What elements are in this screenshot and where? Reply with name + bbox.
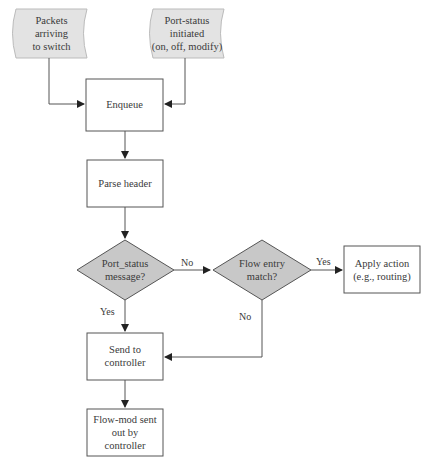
figure-caption-cropped	[10, 461, 430, 467]
port-status-decision-label: Port_status message?	[85, 257, 165, 283]
label-line: (e.g., routing)	[344, 270, 420, 283]
label-line: (on, off, modify)	[145, 40, 229, 53]
label-line: message?	[85, 270, 165, 283]
label-line: Port-status	[145, 14, 229, 27]
label-line: out by	[87, 426, 163, 439]
edge-label-no: No	[239, 311, 251, 322]
label-line: match?	[222, 270, 302, 283]
label-line: Port_status	[85, 257, 165, 270]
flowchart-canvas	[0, 0, 431, 467]
label-line: Send to	[87, 343, 163, 356]
label-line: Flow-mod sent	[87, 413, 163, 426]
label-line: arriving	[16, 27, 87, 40]
flow-entry-decision-label: Flow entry match?	[222, 257, 302, 283]
send-to-controller-label: Send to controller	[87, 343, 163, 369]
port-status-input-label: Port-status initiated (on, off, modify)	[145, 14, 229, 53]
label-line: Apply action	[344, 257, 420, 270]
parse-header-label: Parse header	[87, 177, 163, 190]
label-line: controller	[87, 356, 163, 369]
edge-label-no: No	[181, 257, 193, 268]
apply-action-label: Apply action (e.g., routing)	[344, 257, 420, 283]
label-line: Flow entry	[222, 257, 302, 270]
packets-input-label: Packets arriving to switch	[16, 14, 87, 53]
edge-label-yes: Yes	[100, 306, 115, 317]
edge-label-yes: Yes	[316, 256, 331, 267]
enqueue-label: Enqueue	[86, 98, 163, 111]
flow-mod-label: Flow-mod sent out by controller	[87, 413, 163, 452]
label-line: to switch	[16, 40, 87, 53]
label-line: controller	[87, 439, 163, 452]
label-line: initiated	[145, 27, 229, 40]
label-line: Packets	[16, 14, 87, 27]
